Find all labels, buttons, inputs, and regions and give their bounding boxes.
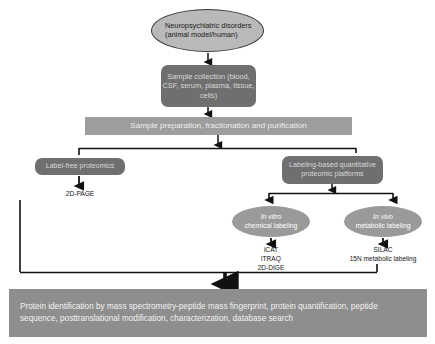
node-in-vivo-rest: metabolic labeling	[355, 222, 410, 229]
node-in-vivo-italic: In vivo	[373, 213, 393, 220]
node-label-free-proteomics: Label-free proteomics	[35, 158, 125, 175]
node-in-vitro-italic: In vitro	[261, 213, 282, 220]
node-neuropsychiatric-label: Neuropsychiatric disorders (animal model…	[165, 22, 263, 40]
node-sample-preparation-label: Sample preparation, fractionation and pu…	[130, 121, 306, 131]
node-protein-identification: Protein identification by mass spectrome…	[9, 289, 427, 337]
node-in-vitro-chemical-labeling: In vitro chemical labeling	[232, 206, 310, 237]
node-neuropsychiatric-disorders: Neuropsychiatric disorders (animal model…	[151, 9, 264, 52]
node-sample-collection: Sample collection (blood, CSF, serum, pl…	[161, 65, 256, 107]
label-in-vitro-methods: iCAT iTRAQ 2D-DIGE	[232, 246, 310, 272]
node-sample-preparation: Sample preparation, fractionation and pu…	[85, 117, 352, 135]
node-in-vivo-metabolic-labeling: In vivo metabolic labeling	[344, 206, 422, 237]
node-labeling-based-label: Labeling-based quantitative proteomic pl…	[282, 161, 383, 178]
node-labeling-based-platforms: Labeling-based quantitative proteomic pl…	[282, 156, 383, 184]
node-protein-identification-label: Protein identification by mass spectrome…	[20, 301, 416, 324]
node-sample-collection-label: Sample collection (blood, CSF, serum, pl…	[161, 72, 256, 99]
node-label-free-label: Label-free proteomics	[46, 162, 115, 171]
node-in-vitro-rest: chemical labeling	[245, 222, 298, 229]
flowchart-diagram: Neuropsychiatric disorders (animal model…	[0, 0, 435, 344]
label-2d-page: 2D-PAGE	[35, 190, 125, 199]
label-in-vivo-methods: SILAC 15N metabolic labeling	[330, 246, 435, 264]
